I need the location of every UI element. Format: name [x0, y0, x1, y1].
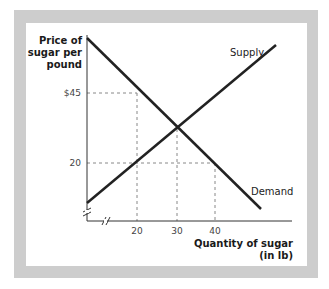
y-axis-label-line1: Price of — [39, 35, 83, 46]
x-tick-40: 40 — [209, 226, 221, 236]
y-tick-45: $45 — [64, 88, 81, 98]
x-axis-label-line1: Quantity of sugar — [194, 238, 293, 249]
y-tick-20: 20 — [70, 158, 82, 168]
y-axis-label-line2: sugar per — [28, 47, 82, 58]
x-tick-30: 30 — [171, 226, 183, 236]
supply-curve — [87, 45, 276, 203]
x-tick-20: 20 — [131, 226, 143, 236]
demand-label: Demand — [251, 186, 293, 197]
y-axis-label-line3: pound — [47, 59, 82, 70]
supply-demand-chart: Supply Demand Price of sugar per pound $… — [0, 0, 329, 289]
x-axis-label-line2: (in lb) — [259, 250, 293, 261]
supply-label: Supply — [230, 47, 264, 58]
demand-curve — [87, 38, 261, 209]
